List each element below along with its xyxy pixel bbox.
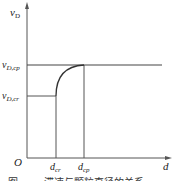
d-cr-label: dcr [50, 161, 61, 174]
d-cp-label: dcp [78, 161, 90, 174]
origin-label: O [14, 156, 22, 168]
y-axis-arrow-icon [25, 2, 29, 9]
chart-canvas: vD vD,cp vD,cr O dcr dcp d 图 —— 滞速与颗粒直径的… [0, 0, 180, 181]
y-axis-label: vD [10, 6, 20, 20]
x-axis-label: d [163, 160, 169, 172]
v-cp-label: vD,cp [2, 59, 20, 72]
v-cr-label: vD,cr [2, 90, 19, 103]
curve [56, 65, 84, 96]
figure-caption: 图 —— 滞速与颗粒直径的关系 [8, 176, 144, 181]
